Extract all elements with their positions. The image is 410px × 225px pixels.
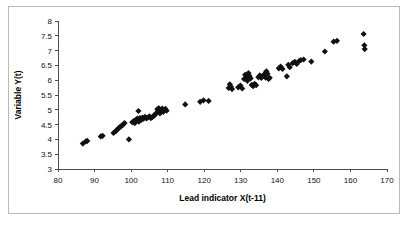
data-point-marker <box>322 48 328 54</box>
x-tick-label: 130 <box>234 176 248 185</box>
x-tick-label: 170 <box>380 176 394 185</box>
data-point-marker <box>284 73 290 79</box>
x-tick-label: 140 <box>271 176 285 185</box>
data-point-marker <box>182 101 188 107</box>
x-tick-label: 80 <box>54 176 63 185</box>
data-point-marker <box>308 58 314 64</box>
y-tick-label: 5 <box>48 106 53 115</box>
scatter-plot: 33.544.555.566.577.588090100110120130140… <box>9 7 401 215</box>
y-tick-label: 8 <box>48 17 53 26</box>
figure-frame: 33.544.555.566.577.588090100110120130140… <box>8 6 400 214</box>
y-tick-label: 3 <box>48 165 53 174</box>
y-tick-label: 6.5 <box>41 61 53 70</box>
data-point-marker <box>361 31 367 37</box>
y-tick-label: 7.5 <box>41 32 53 41</box>
x-tick-label: 110 <box>161 176 174 185</box>
y-tick-label: 4 <box>48 135 53 144</box>
x-tick-label: 100 <box>124 176 138 185</box>
x-tick-label: 160 <box>344 176 358 185</box>
x-tick-label: 120 <box>198 176 212 185</box>
data-point-marker <box>362 46 368 52</box>
data-point-marker <box>135 108 141 114</box>
scatter-chart-canvas: 33.544.555.566.577.588090100110120130140… <box>9 7 401 215</box>
y-tick-label: 7 <box>48 47 53 56</box>
x-tick-label: 150 <box>307 176 321 185</box>
x-axis-title: Lead indicator X(t-11) <box>179 193 266 203</box>
data-point-marker <box>126 136 132 142</box>
data-point-marker <box>206 98 212 104</box>
y-tick-label: 5.5 <box>41 91 53 100</box>
y-tick-label: 4.5 <box>41 121 53 130</box>
y-tick-label: 6 <box>48 76 53 85</box>
y-axis-title: Variable Y(t) <box>13 70 23 119</box>
x-tick-label: 90 <box>90 176 99 185</box>
y-tick-label: 3.5 <box>41 150 53 159</box>
